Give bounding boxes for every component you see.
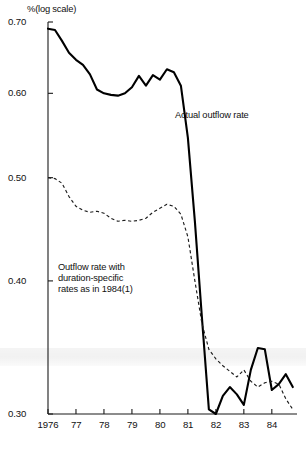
x-axis-tick-label: 81: [183, 419, 193, 431]
annotation-duration-specific-line3: rates as in 1984(1): [58, 284, 133, 295]
x-axis-tick-label: 83: [239, 419, 249, 431]
x-axis-tick-label: 78: [99, 419, 109, 431]
y-axis-tick-label: 0.70: [8, 16, 26, 28]
y-axis-unit-label: %(log scale): [27, 3, 76, 14]
y-axis-tick-label: 0.60: [8, 87, 26, 99]
y-axis-tick-label: 0.40: [8, 275, 26, 287]
x-axis-tick-label: 84: [267, 419, 277, 431]
y-axis-tick-label: 0.30: [8, 408, 26, 420]
x-axis-tick-label: 1976: [38, 419, 59, 431]
annotation-duration-specific-line1: Outflow rate with: [58, 262, 125, 273]
chart-series: [48, 29, 293, 414]
x-axis-tick-label: 80: [155, 419, 165, 431]
series-line-actual-outflow: [48, 29, 293, 414]
chart-canvas: [0, 0, 306, 457]
annotation-duration-specific-line2: duration-specific: [58, 273, 123, 284]
outflow-rate-chart: %(log scale) Actual outflow rate Outflow…: [0, 0, 306, 457]
y-axis-tick-label: 0.50: [8, 172, 26, 184]
chart-axes: [48, 22, 297, 414]
annotation-actual-outflow-rate: Actual outflow rate: [175, 110, 249, 121]
x-axis-tick-label: 79: [127, 419, 137, 431]
x-axis-tick-label: 77: [71, 419, 81, 431]
x-axis-tick-label: 82: [211, 419, 221, 431]
